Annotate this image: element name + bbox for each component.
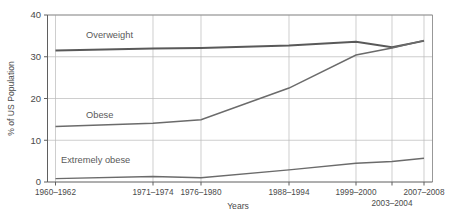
- x-tick-label-5: 2003–2004: [372, 199, 413, 208]
- series-label-obese: Obese: [86, 110, 113, 120]
- series-line-overweight: [56, 41, 425, 51]
- series-label-extremely-obese: Extremely obese: [61, 155, 130, 165]
- y-tick-label-40: 40: [30, 9, 41, 20]
- y-axis-title: % of US Population: [6, 61, 16, 136]
- y-tick-label-0: 0: [36, 176, 41, 187]
- x-tick-label-2: 1976–1980: [181, 188, 222, 197]
- chart-canvas: 0102030401960–19621971–19741976–19801988…: [0, 0, 476, 223]
- y-tick-label-10: 10: [30, 135, 41, 146]
- y-tick-label-30: 30: [30, 51, 41, 62]
- x-tick-label-0: 1960–1962: [35, 188, 76, 197]
- x-tick-label-4: 1999–2000: [336, 188, 377, 197]
- obesity-trends-chart: 0102030401960–19621971–19741976–19801988…: [0, 0, 476, 223]
- x-axis-ticks: [56, 182, 425, 186]
- x-tick-label-1: 1971–1974: [133, 188, 174, 197]
- y-tick-label-20: 20: [30, 93, 41, 104]
- x-tick-label-6: 2007–2008: [404, 188, 445, 197]
- series-label-overweight: Overweight: [86, 30, 133, 40]
- y-axis-ticks: 010203040: [30, 9, 47, 187]
- x-axis-title: Years: [227, 201, 249, 211]
- x-tick-label-3: 1988–1994: [269, 188, 310, 197]
